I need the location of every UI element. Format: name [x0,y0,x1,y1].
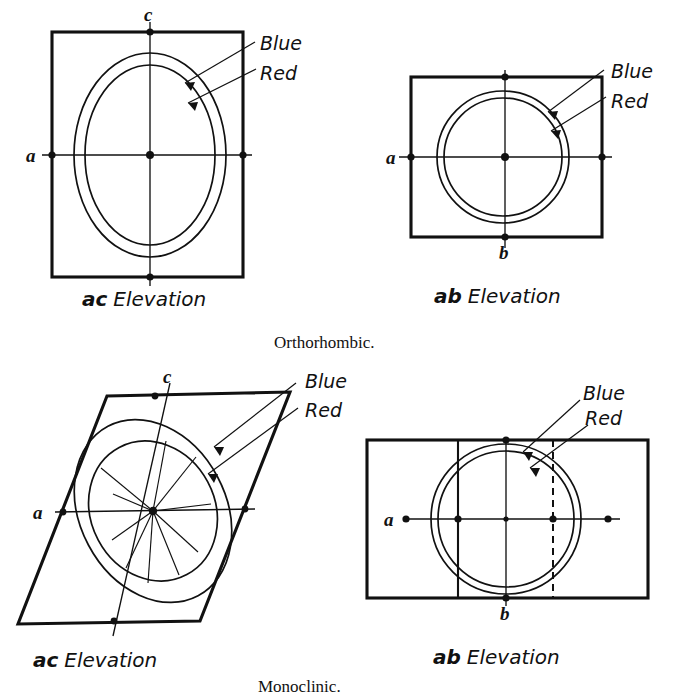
monoclinic-ac-callout-blue: Blue [305,370,347,392]
caption-suffix: Elevation [113,287,206,311]
crystal-optics-figure: a c Blue Red acElevation a b Blue Red [0,0,676,699]
monoclinic-ab-callout-blue: Blue [583,382,625,404]
node-dot [152,393,159,400]
panel-orthorhombic-ac: a c Blue Red acElevation [26,4,302,311]
monoclinic-ab-caption: abElevation [433,645,560,669]
node-dot [502,436,509,443]
monoclinic-ab-callout-red: Red [585,407,623,429]
node-dot [60,509,67,516]
node-dot [146,28,153,35]
orthorhombic-ab-label-b: b [499,242,509,263]
node-dot [549,515,556,522]
caption-suffix: Elevation [467,645,560,669]
node-dot-center [149,507,157,515]
orthorhombic-ac-label-a: a [26,145,36,166]
orthorhombic-ab-label-a: a [386,147,396,168]
monoclinic-ab-blue-leader [523,400,580,452]
node-dot-center [146,151,154,159]
orthorhombic-ab-caption: abElevation [434,284,561,308]
node-dot [501,233,508,240]
panel-monoclinic-ab: a b Blue Red abElevation [367,382,648,669]
panel-orthorhombic-ab: a b Blue Red abElevation [386,60,653,308]
node-dot [604,515,611,522]
orthorhombic-ac-red-arrowhead [188,102,198,111]
node-dot [501,73,508,80]
node-dot [402,515,409,522]
caption-orthorhombic: Orthorhombic. [274,333,375,352]
node-dot [242,506,249,513]
node-dot [454,515,461,522]
monoclinic-ab-label-b: b [500,603,510,624]
node-dot [48,151,55,158]
caption-prefix: ab [433,645,461,669]
node-dot [111,618,118,625]
monoclinic-ab-red-leader [530,425,588,468]
orthorhombic-ac-callout-red: Red [260,62,298,84]
monoclinic-ac-label-a: a [33,502,43,523]
node-dot [239,151,246,158]
node-dot [502,594,509,601]
orthorhombic-ab-callout-blue: Blue [611,60,653,82]
monoclinic-ac-red-arrowhead [208,474,218,483]
monoclinic-ac-blue-arrowhead [214,447,224,456]
monoclinic-ab-red-arrowhead [530,468,540,477]
monoclinic-ac-caption: acElevation [33,648,157,672]
caption-suffix: Elevation [64,648,157,672]
caption-prefix: ac [82,287,107,311]
orthorhombic-ac-red-leader [188,69,256,103]
node-dot-center [503,516,508,521]
orthorhombic-ac-caption: acElevation [82,287,206,311]
node-dot [598,153,605,160]
monoclinic-ac-callout-red: Red [305,399,343,421]
node-dot [146,273,153,280]
caption-suffix: Elevation [468,284,561,308]
monoclinic-ab-label-a: a [384,509,394,530]
caption-prefix: ab [434,284,462,308]
panel-monoclinic-ac: a c Blue Red acElevation [18,366,347,672]
node-dot-center [501,153,509,161]
orthorhombic-ac-callout-blue: Blue [260,32,302,54]
orthorhombic-ab-red-leader [551,97,606,131]
figure-root: a c Blue Red acElevation a b Blue Red [0,0,676,699]
orthorhombic-ac-blue-arrowhead [185,82,195,91]
orthorhombic-ab-callout-red: Red [611,90,649,112]
orthorhombic-ac-label-c: c [144,4,153,25]
monoclinic-ac-label-c: c [163,366,172,387]
caption-prefix: ac [33,648,58,672]
caption-monoclinic: Monoclinic. [258,677,341,696]
node-dot [407,153,414,160]
